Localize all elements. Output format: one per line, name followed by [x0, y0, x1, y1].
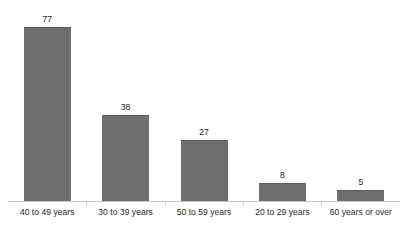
x-axis-category-label: 30 to 39 years: [86, 207, 164, 218]
x-axis-tick: [321, 202, 322, 206]
bar-rect[interactable]: [337, 190, 384, 201]
x-axis-category-label: 40 to 49 years: [8, 207, 86, 218]
bar-rect[interactable]: [259, 183, 306, 201]
bar-rect[interactable]: [102, 115, 149, 201]
x-axis-category-label: 50 to 59 years: [165, 207, 243, 218]
bar-value-label: 8: [280, 171, 285, 180]
bars-container: 77 38 27 8 5: [8, 0, 400, 201]
bar-chart: 77 38 27 8 5: [0, 0, 409, 236]
x-axis-labels: 40 to 49 years 30 to 39 years 50 to 59 y…: [8, 207, 400, 227]
x-axis-category-label: 60 years or over: [322, 207, 400, 218]
bar-group-0[interactable]: 77: [8, 0, 86, 201]
bar-group-3[interactable]: 8: [243, 0, 321, 201]
bar-value-label: 77: [42, 15, 52, 24]
bar-group-4[interactable]: 5: [322, 0, 400, 201]
bar-rect[interactable]: [181, 140, 228, 201]
bar-value-label: 27: [199, 128, 209, 137]
plot-area: 77 38 27 8 5: [0, 0, 409, 202]
bar-value-label: 5: [358, 178, 363, 187]
x-axis-tick: [86, 202, 87, 206]
x-axis-category-label: 20 to 29 years: [243, 207, 321, 218]
x-axis-tick: [165, 202, 166, 206]
x-axis-line: [8, 201, 400, 202]
bar-group-2[interactable]: 27: [165, 0, 243, 201]
bar-value-label: 38: [121, 103, 131, 112]
bar-group-1[interactable]: 38: [86, 0, 164, 201]
x-axis-tick: [243, 202, 244, 206]
bar-rect[interactable]: [24, 27, 71, 201]
